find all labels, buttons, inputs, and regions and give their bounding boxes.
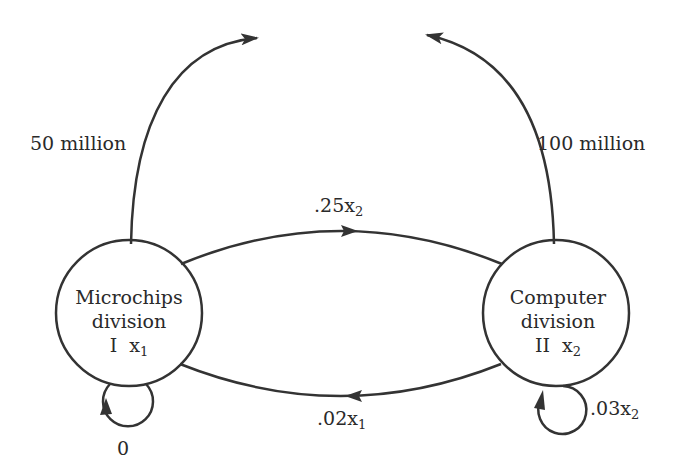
node-II-line1: Computer	[483, 285, 633, 309]
edge-II-self-loop	[538, 386, 586, 434]
node-I-line2: division	[54, 309, 204, 333]
node-I-line1: Microchips	[54, 285, 204, 309]
arrow-II-self-loop-icon	[534, 390, 545, 410]
edge-II-external	[427, 35, 554, 244]
node-I-line3: I x1	[54, 333, 204, 364]
edge-I-self-loop	[103, 384, 153, 426]
edge-label-I-to-II: .25x2	[314, 196, 363, 218]
edge-label-100-million: 100 million	[537, 134, 645, 153]
edge-label-II-to-I: .02x1	[317, 409, 366, 431]
node-II-line3: II x2	[483, 333, 633, 364]
edge-label-II-self-loop: .03x2	[590, 399, 639, 421]
node-I-label: Microchips division I x1	[54, 285, 204, 364]
edge-I-external	[131, 38, 257, 244]
edge-label-50-million: 50 million	[30, 134, 126, 153]
edge-I-to-II	[181, 231, 502, 264]
edge-II-to-I	[180, 364, 501, 396]
edge-label-I-self-loop: 0	[117, 439, 129, 458]
node-II-label: Computer division II x2	[483, 285, 633, 364]
node-II-line2: division	[483, 309, 633, 333]
